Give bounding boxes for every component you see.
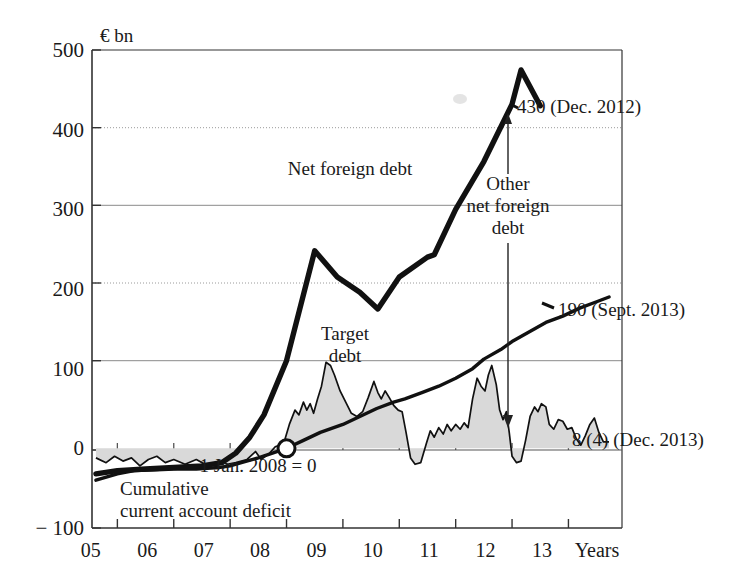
- y-tick-label: 400: [53, 118, 85, 142]
- value-8: 8 (4) (Dec. 2013): [572, 429, 704, 451]
- x-axis-tick-labels: 050607080910111213: [81, 539, 552, 561]
- y-tick-label: 0: [74, 436, 85, 460]
- target-debt-label-1: Target: [321, 323, 370, 344]
- value-190: 190 (Sept. 2013): [558, 299, 685, 321]
- other-net-foreign-debt-label-2: net foreign: [467, 195, 550, 216]
- x-tick-label: 06: [137, 539, 157, 561]
- y-tick-label: 100: [53, 357, 85, 381]
- cumulative-label-1: Cumulative: [120, 478, 209, 499]
- y-tick-label: 200: [53, 277, 85, 301]
- x-tick-label: 07: [194, 539, 214, 561]
- x-tick-label: 13: [532, 539, 552, 561]
- x-tick-label: 11: [420, 539, 439, 561]
- x-tick-label: 10: [363, 539, 383, 561]
- y-tick-label: 500: [53, 38, 85, 62]
- scan-smudge: [453, 94, 467, 104]
- net-foreign-debt-label: Net foreign debt: [288, 158, 413, 179]
- x-tick-label: 05: [81, 539, 101, 561]
- chart-figure: − 1000100200300400500 050607080910111213…: [0, 0, 734, 588]
- x-tick-label: 12: [476, 539, 496, 561]
- other-net-foreign-debt-label-1: Other: [486, 173, 530, 194]
- target-debt-label-2: debt: [329, 345, 362, 366]
- zero-marker-label: 1 Jan. 2008 = 0: [200, 455, 317, 476]
- other-net-foreign-debt-label-3: debt: [492, 217, 525, 238]
- y-axis-title: € bn: [100, 25, 134, 46]
- x-tick-label: 08: [250, 539, 270, 561]
- x-tick-label: 09: [306, 539, 326, 561]
- x-axis-title: Years: [575, 539, 620, 561]
- y-tick-label: − 100: [35, 516, 84, 540]
- value-430: 430 (Dec. 2012): [517, 96, 641, 118]
- y-axis-tick-labels: − 1000100200300400500: [35, 38, 84, 540]
- y-tick-label: 300: [53, 197, 85, 221]
- chart-canvas: − 1000100200300400500 050607080910111213…: [0, 0, 734, 588]
- cumulative-label-2: current account deficit: [120, 500, 292, 521]
